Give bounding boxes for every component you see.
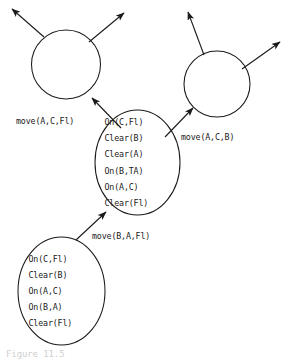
left-node-outgoing-edge-left bbox=[12, 9, 44, 37]
state-literal: On(C,Fl) bbox=[105, 117, 144, 127]
state-literal: On(B,A) bbox=[29, 302, 63, 312]
right-expanded-node-outline bbox=[184, 51, 250, 117]
nodes-layer: On(C,Fl)Clear(B)On(A,C)On(B,A)Clear(Fl)O… bbox=[18, 30, 250, 345]
left-node-outgoing-edge-right bbox=[89, 13, 124, 42]
successor-state-node: On(C,Fl)Clear(B)Clear(A)On(B,TA)On(A,C)C… bbox=[95, 110, 180, 215]
state-literal: On(A,C) bbox=[29, 286, 63, 296]
left-expanded-node bbox=[32, 30, 101, 99]
state-literal: Clear(B) bbox=[29, 270, 68, 280]
edge-successor-to-left-label: move(A,C,Fl) bbox=[16, 116, 74, 126]
right-node-outgoing-edge-right bbox=[242, 42, 280, 69]
right-node-outgoing-edge-left bbox=[188, 12, 204, 55]
right-expanded-node bbox=[184, 51, 250, 117]
figure-caption: Figure 11.5 bbox=[6, 349, 65, 359]
state-literal: On(C,Fl) bbox=[29, 254, 68, 264]
edge-initial-to-successor-label: move(B,A,Fl) bbox=[92, 231, 150, 241]
initial-state-node: On(C,Fl)Clear(B)On(A,C)On(B,A)Clear(Fl) bbox=[18, 237, 105, 345]
diagram-canvas: On(C,Fl)Clear(B)On(A,C)On(B,A)Clear(Fl)O… bbox=[0, 0, 299, 360]
edge-successor-to-right-label: move(A,C,B) bbox=[181, 132, 234, 142]
left-expanded-node-outline bbox=[32, 30, 101, 99]
state-literal: Clear(B) bbox=[105, 133, 144, 143]
state-literal: On(B,TA) bbox=[105, 166, 144, 176]
search-tree-diagram: On(C,Fl)Clear(B)On(A,C)On(B,A)Clear(Fl)O… bbox=[0, 0, 299, 360]
state-literal: On(A,C) bbox=[105, 182, 139, 192]
state-literal: Clear(Fl) bbox=[29, 318, 73, 328]
state-literal: Clear(Fl) bbox=[105, 198, 149, 208]
state-literal: Clear(A) bbox=[105, 149, 144, 159]
